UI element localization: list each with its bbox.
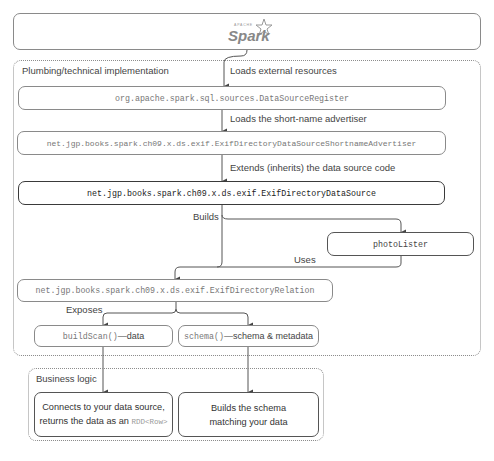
node-photo-lister: photoLister: [327, 232, 474, 256]
edge-label-builds: Builds: [193, 211, 219, 222]
node-exif-relation: net.jgp.books.spark.ch09.x.ds.exif.ExifD…: [17, 279, 333, 302]
edge-label-loads-external: Loads external resources: [230, 65, 337, 76]
schema-label: schema()—schema & metadata: [184, 331, 313, 341]
business-schema-box: Builds the schema matching your data: [178, 392, 319, 437]
edge-label-exposes: Exposes: [66, 304, 102, 315]
edge-label-uses: Uses: [294, 254, 316, 265]
node-build-scan: buildScan()—data: [34, 325, 173, 347]
node-shortname-advertiser: net.jgp.books.spark.ch09.x.ds.exif.ExifD…: [17, 131, 446, 155]
build-scan-label: buildScan()—data: [63, 331, 144, 341]
edge-label-loads-shortname: Loads the short-name advertiser: [230, 113, 367, 124]
node-schema: schema()—schema & metadata: [178, 325, 319, 347]
node-datasource-register: org.apache.spark.sql.sources.DataSourceR…: [18, 86, 446, 110]
business-logic-title: Business logic: [36, 373, 97, 384]
node-exif-datasource: net.jgp.books.spark.ch09.x.ds.exif.ExifD…: [18, 181, 445, 205]
edge-label-extends: Extends (inherits) the data source code: [230, 162, 395, 173]
business-connect-box: Connects to your data source, returns th…: [34, 392, 173, 437]
